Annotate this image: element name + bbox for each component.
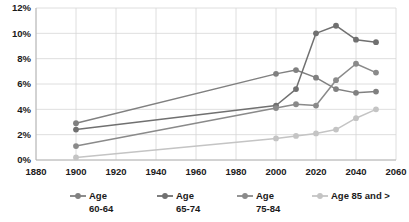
y-axis-tick-labels: 0%2%4%6%8%10%12% [12,2,32,165]
legend-item-label: Age [89,190,107,201]
y-axis-tick-label: 12% [12,2,32,13]
x-axis-tick-labels: 1880190019201940196019802000202020402060 [25,166,406,177]
legend-swatch-marker [317,193,323,199]
x-axis-tick-label: 2040 [345,166,366,177]
legend-item-label-line2: 65-74 [176,203,201,214]
x-axis-tick-label: 1920 [105,166,126,177]
x-axis-tick-label: 1980 [225,166,246,177]
data-point-marker [73,143,79,149]
data-point-marker [313,103,319,109]
y-axis-tick-label: 0% [17,154,31,165]
legend-item-label: Age [256,190,274,201]
series-line-3 [76,109,376,157]
series-line-0 [76,70,376,123]
data-point-marker [373,39,379,45]
series-line-1 [76,26,376,130]
data-point-marker [333,77,339,83]
data-point-marker [353,61,359,67]
data-point-marker [293,133,299,139]
y-axis-tick-label: 4% [17,104,31,115]
data-point-marker [353,37,359,43]
data-point-marker [333,127,339,133]
x-axis-tick-label: 2000 [265,166,286,177]
chart-container: 0%2%4%6%8%10%12% 18801900192019401960198… [0,0,409,222]
x-axis-tick-label: 2060 [385,166,406,177]
y-axis-tick-label: 8% [17,53,31,64]
data-point-marker [313,131,319,137]
data-point-marker [373,106,379,112]
data-series-layer [73,23,379,161]
x-axis-tick-label: 1960 [185,166,206,177]
data-point-marker [273,105,279,111]
legend-item-1[interactable]: Age65-74 [157,190,201,214]
legend-swatch-marker [162,193,168,199]
data-point-marker [333,23,339,29]
data-point-marker [293,86,299,92]
data-point-marker [353,115,359,121]
data-point-marker [313,75,319,81]
x-axis-tick-label: 1900 [65,166,86,177]
data-point-marker [293,101,299,107]
legend-swatch-marker [242,193,248,199]
data-point-marker [73,155,79,161]
line-chart: 0%2%4%6%8%10%12% 18801900192019401960198… [0,0,409,222]
legend-item-3[interactable]: Age 85 and > [312,190,390,201]
y-axis-tick-label: 6% [17,78,31,89]
x-axis-tick-label: 2020 [305,166,326,177]
legend-item-label-line2: 75-84 [256,203,281,214]
legend-item-label: Age [176,190,194,201]
data-point-marker [373,89,379,95]
series-line-2 [76,64,376,146]
data-point-marker [293,67,299,73]
x-axis-tick-label: 1880 [25,166,46,177]
x-axis-tick-label: 1940 [145,166,166,177]
data-point-marker [313,30,319,36]
y-axis-tick-label: 2% [17,129,31,140]
legend-item-0[interactable]: Age60-64 [70,190,114,214]
data-point-marker [73,127,79,133]
data-point-marker [373,70,379,76]
legend-item-2[interactable]: Age75-84 [237,190,281,214]
data-point-marker [353,90,359,96]
legend-item-label: Age 85 and > [331,190,390,201]
data-point-marker [333,86,339,92]
legend-item-label-line2: 60-64 [89,203,114,214]
data-point-marker [273,71,279,77]
chart-legend: Age60-64Age65-74Age75-84Age 85 and > [70,190,390,214]
y-axis-tick-label: 10% [12,28,32,39]
data-point-marker [273,136,279,142]
legend-swatch-marker [75,193,81,199]
data-point-marker [73,120,79,126]
